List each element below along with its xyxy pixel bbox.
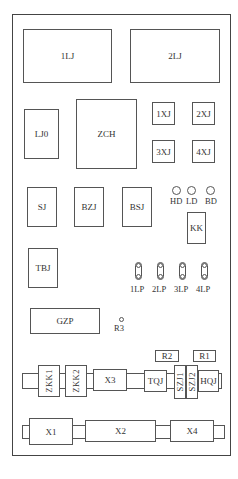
component-szj1: SZJ1 bbox=[174, 365, 186, 399]
component-label: 4XJ bbox=[196, 147, 211, 157]
component-label: ZKK1 bbox=[44, 369, 54, 393]
r3-terminal-icon bbox=[119, 317, 124, 322]
component-zch: ZCH bbox=[76, 99, 137, 169]
component-label: BZJ bbox=[81, 202, 96, 212]
link-plate-2lp-icon bbox=[157, 262, 164, 280]
component-3xj: 3XJ bbox=[152, 140, 175, 163]
link-plate-label-4lp: 4LP bbox=[196, 284, 210, 294]
component-x1: X1 bbox=[29, 418, 73, 445]
link-plate-label-2lp: 2LP bbox=[152, 284, 166, 294]
link-plate-3lp-icon bbox=[179, 262, 186, 280]
component-2lj: 2LJ bbox=[130, 29, 220, 83]
lamp-bd-icon bbox=[206, 186, 215, 195]
component-x4: X4 bbox=[170, 420, 214, 442]
component-label: X1 bbox=[46, 427, 57, 437]
component-1lj: 1LJ bbox=[23, 29, 112, 83]
component-label: 1XJ bbox=[156, 109, 171, 119]
component-x3: X3 bbox=[93, 369, 127, 391]
link-plate-4lp-icon bbox=[201, 262, 208, 280]
component-1xj: 1XJ bbox=[152, 102, 175, 125]
component-label: R2 bbox=[162, 351, 173, 361]
component-gzp: GZP bbox=[30, 308, 100, 334]
component-label: ZKK2 bbox=[71, 369, 81, 393]
component-label: TBJ bbox=[35, 263, 50, 273]
component-label: R1 bbox=[199, 351, 210, 361]
component-label: X2 bbox=[115, 426, 126, 436]
component-label: X4 bbox=[187, 426, 198, 436]
component-label: ZCH bbox=[98, 129, 116, 139]
component-zkk1: ZKK1 bbox=[38, 365, 60, 397]
component-tqj: TQJ bbox=[144, 370, 167, 392]
link-plate-1lp-icon bbox=[135, 262, 142, 280]
component-r2: R2 bbox=[155, 350, 179, 362]
component-label: 2XJ bbox=[196, 109, 211, 119]
component-zkk2: ZKK2 bbox=[65, 365, 87, 397]
component-label: TQJ bbox=[148, 376, 164, 386]
lamp-label-ld: LD bbox=[186, 196, 197, 206]
component-r1: R1 bbox=[193, 350, 216, 362]
component-label: SJ bbox=[38, 202, 47, 212]
component-lj0: LJ0 bbox=[24, 109, 59, 159]
lamp-label-bd: BD bbox=[205, 196, 217, 206]
label-r3: R3 bbox=[114, 323, 124, 333]
component-tbj: TBJ bbox=[28, 248, 58, 288]
component-label: HQJ bbox=[200, 376, 217, 386]
component-label: 3XJ bbox=[156, 147, 171, 157]
component-sj: SJ bbox=[27, 187, 57, 227]
component-label: GZP bbox=[56, 316, 73, 326]
component-label: BSJ bbox=[130, 202, 145, 212]
component-4xj: 4XJ bbox=[192, 140, 215, 163]
component-label: 2LJ bbox=[168, 51, 182, 61]
link-plate-label-3lp: 3LP bbox=[174, 284, 188, 294]
component-bsj: BSJ bbox=[122, 187, 152, 227]
link-plate-label-1lp: 1LP bbox=[130, 284, 144, 294]
lamp-ld-icon bbox=[187, 186, 196, 195]
component-2xj: 2XJ bbox=[192, 102, 215, 125]
component-label: X3 bbox=[105, 375, 116, 385]
component-label: SZJ1 bbox=[175, 372, 185, 391]
component-szj2: SZJ2 bbox=[186, 365, 198, 399]
component-label: SZJ2 bbox=[187, 372, 197, 391]
component-label: LJ0 bbox=[35, 129, 49, 139]
component-label: KK bbox=[190, 223, 203, 233]
component-bzj: BZJ bbox=[74, 187, 104, 227]
component-label: 1LJ bbox=[61, 51, 75, 61]
lamp-hd-icon bbox=[172, 186, 181, 195]
component-x2: X2 bbox=[85, 420, 156, 442]
lamp-label-hd: HD bbox=[170, 196, 182, 206]
component-kk: KK bbox=[187, 212, 206, 244]
component-hqj: HQJ bbox=[198, 370, 219, 392]
